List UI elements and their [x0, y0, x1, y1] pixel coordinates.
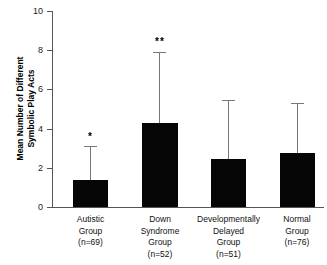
- error-bar-cap-2: [153, 52, 166, 53]
- x-axis-label-developmentally-delayed-group: Developmentally Delayed Group (n=51): [185, 214, 272, 260]
- y-tick-label-6: 6: [3, 85, 43, 94]
- y-tick-label-2: 2: [3, 164, 43, 173]
- bar-normal-group: [280, 153, 315, 207]
- error-bar-stem-2: [159, 52, 160, 123]
- x-axis-label-autistic-group: Autistic Group (n=69): [50, 214, 131, 249]
- y-axis-line: [52, 11, 53, 208]
- error-bar-stem-3: [228, 100, 229, 159]
- y-tick-label-10: 10: [3, 7, 43, 16]
- error-bar-cap-1: [84, 146, 97, 147]
- y-tick-label-0: 0: [3, 203, 43, 212]
- error-bar-cap-4: [291, 103, 304, 104]
- y-tick-label-8: 8: [3, 46, 43, 55]
- error-bar-cap-3: [222, 100, 235, 101]
- x-axis-line: [52, 207, 324, 208]
- error-bar-stem-1: [90, 146, 91, 180]
- bar-down-syndrome-group: [142, 123, 178, 207]
- y-tick-mark-4: [47, 129, 52, 130]
- y-tick-mark-6: [47, 89, 52, 90]
- x-axis-label-normal-group: Normal Group (n=76): [267, 214, 327, 249]
- significance-marker-1: *: [73, 132, 108, 142]
- bar-autistic-group: [73, 180, 108, 207]
- y-tick-label-4: 4: [3, 125, 43, 134]
- error-bar-stem-4: [297, 103, 298, 153]
- y-axis-title: Mean Number of Different Symbolic Play A…: [15, 9, 36, 209]
- bar-developmentally-delayed-group: [211, 159, 246, 207]
- bar-chart-figure: Mean Number of Different Symbolic Play A…: [0, 0, 327, 265]
- y-tick-mark-10: [47, 11, 52, 12]
- y-tick-mark-2: [47, 168, 52, 169]
- y-tick-mark-8: [47, 50, 52, 51]
- y-tick-mark-0: [47, 207, 52, 208]
- significance-marker-2: **: [142, 37, 178, 47]
